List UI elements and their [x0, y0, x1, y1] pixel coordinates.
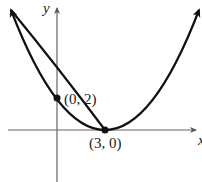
point-0-2 — [54, 95, 61, 102]
x-axis-label: x — [197, 132, 202, 148]
point-3-0-label: (3, 0) — [89, 135, 122, 152]
y-axis-label: y — [41, 0, 50, 16]
parabola-curve-right — [105, 10, 199, 130]
parabola-curve — [11, 10, 105, 130]
point-3-0 — [102, 127, 109, 134]
parabola-chart: y x (0, 2) (3, 0) — [0, 0, 202, 182]
point-0-2-label: (0, 2) — [64, 91, 97, 108]
